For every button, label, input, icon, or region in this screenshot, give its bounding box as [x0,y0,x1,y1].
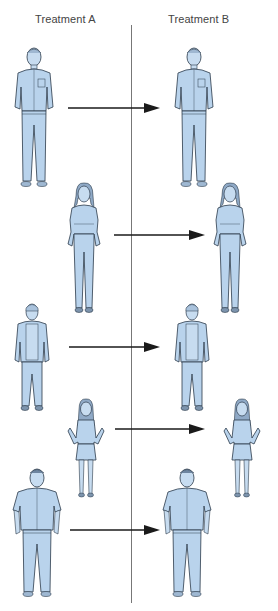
subject-girl-treatment-b [222,398,262,498]
arrow-right-icon [68,103,160,113]
subject-adult-man-treatment-a [12,45,56,187]
treatment-a-header: Treatment A [35,13,96,25]
subject-adult-man-treatment-b [172,45,216,187]
subject-older-man-treatment-b [162,466,212,598]
subject-young-woman-treatment-a [64,182,104,313]
treatment-b-header: Treatment B [168,13,229,25]
arrow-right-icon [69,342,160,352]
subject-girl-treatment-a [66,398,106,498]
subject-teen-boy-treatment-b [174,302,210,411]
arrow-right-icon [115,424,205,434]
subject-young-woman-treatment-b [210,182,250,313]
subject-older-man-treatment-a [12,466,62,598]
subject-teen-boy-treatment-a [14,302,50,411]
arrow-right-icon [70,525,160,535]
arrow-right-icon [114,230,205,240]
